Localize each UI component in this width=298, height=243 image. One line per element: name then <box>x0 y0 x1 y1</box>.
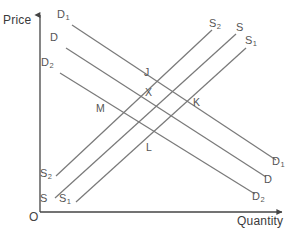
supply-label-s1-bottom: S1 <box>59 192 71 204</box>
demand-label-d2-right-sub: 2 <box>260 195 264 204</box>
point-label-m: M <box>96 102 105 114</box>
supply-label-s1-top-text: S <box>245 34 252 46</box>
supply-label-s2-bottom: S2 <box>40 167 52 179</box>
point-label-j: J <box>144 66 149 78</box>
supply-label-s2-bottom-text: S <box>40 167 47 179</box>
supply-demand-chart: Price Quantity O D1 D D2 D1 D D2 S2 S S1… <box>0 0 298 243</box>
supply-label-s1-top: S1 <box>245 34 257 46</box>
supply-label-s-bottom: S <box>40 192 47 204</box>
demand-label-d-top: D <box>50 31 58 43</box>
demand-label-d2-right-text: D <box>252 190 260 202</box>
demand-label-d2-right: D2 <box>252 190 264 202</box>
supply-label-s2-bottom-sub: 2 <box>48 172 52 181</box>
supply-label-s2-top-sub: 2 <box>217 22 221 31</box>
supply-label-s-top: S <box>236 21 243 33</box>
supply-label-s2-top: S2 <box>209 17 221 29</box>
point-label-l: L <box>146 141 152 153</box>
point-label-x: X <box>145 86 152 98</box>
demand-curve-d2 <box>60 73 255 194</box>
demand-label-d1-top: D1 <box>57 8 69 20</box>
supply-label-s1-bottom-sub: 1 <box>67 197 71 206</box>
supply-label-s1-bottom-text: S <box>59 192 66 204</box>
x-axis-title: Quantity <box>237 214 283 228</box>
demand-label-d-right: D <box>264 173 272 185</box>
demand-label-d1-top-sub: 1 <box>65 13 69 22</box>
demand-label-d1-right-text: D <box>272 155 280 167</box>
demand-label-d2-top-text: D <box>41 56 49 68</box>
demand-label-d2-top: D2 <box>41 56 53 68</box>
origin-label: O <box>29 210 38 224</box>
supply-curve-s2 <box>56 30 212 176</box>
demand-label-d1-right: D1 <box>272 155 284 167</box>
demand-label-d2-top-sub: 2 <box>49 61 53 70</box>
y-axis-title: Price <box>3 13 31 27</box>
point-label-k: K <box>193 96 200 108</box>
demand-label-d1-top-text: D <box>57 8 65 20</box>
supply-label-s2-top-text: S <box>209 17 216 29</box>
supply-label-s1-top-sub: 1 <box>253 39 257 48</box>
demand-label-d1-right-sub: 1 <box>280 160 284 169</box>
